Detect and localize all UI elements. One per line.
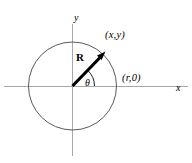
y-axis-label: y (74, 13, 78, 23)
vector-r-label: R (76, 52, 84, 63)
point-xy-label: (x,y) (105, 30, 125, 41)
angle-theta-label: θ (85, 78, 90, 88)
x-axis-label: x (176, 83, 180, 93)
polar-circle-diagram (0, 0, 192, 163)
figure-root: y x (x,y) (r,0) R θ (0, 0, 192, 163)
point-r0-label: (r,0) (122, 73, 141, 84)
